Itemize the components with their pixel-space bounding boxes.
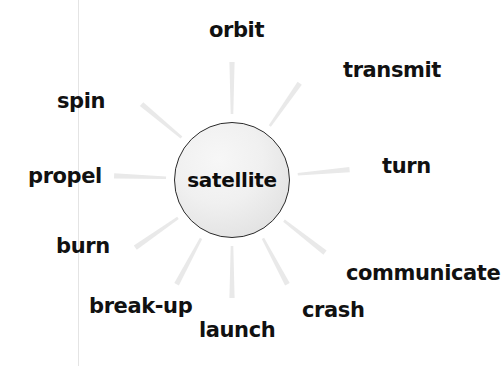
spoke-label-turn[interactable]: turn [382, 156, 431, 177]
spoke-label-orbit[interactable]: orbit [209, 20, 264, 41]
spoke-label-launch[interactable]: launch [199, 320, 275, 341]
ray-spin [140, 102, 182, 138]
spoke-label-crash[interactable]: crash [302, 300, 364, 321]
ray-burn [134, 217, 179, 250]
ray-orbit [229, 62, 234, 114]
spoke-label-communicate[interactable]: communicate [346, 263, 500, 284]
ray-break-up [174, 238, 202, 286]
spoke-label-transmit[interactable]: transmit [343, 60, 441, 81]
spoke-label-burn[interactable]: burn [56, 236, 110, 257]
ray-turn [298, 167, 350, 175]
ray-transmit [269, 82, 302, 127]
ray-crash [262, 238, 290, 286]
spoke-label-break-up[interactable]: break-up [89, 296, 192, 317]
diagram-canvas: satellite orbittransmitturncommunicatecr… [0, 0, 501, 366]
ray-launch [229, 246, 234, 298]
spoke-label-propel[interactable]: propel [28, 166, 102, 187]
ray-communicate [283, 220, 326, 255]
center-node[interactable]: satellite [174, 122, 290, 238]
center-node-label: satellite [187, 168, 277, 192]
spoke-label-spin[interactable]: spin [57, 91, 105, 112]
ray-propel [114, 173, 166, 179]
